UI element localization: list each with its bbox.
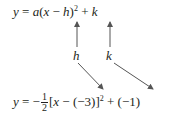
specific-vertex-form-equation: y = −12[x − (−3)]2 + (−1) [13,93,140,114]
plus-k-value: + (−1) [104,94,140,109]
arrow-k-to-minus1 [114,63,153,89]
minus-h-value: − (−3)] [59,94,100,109]
fraction-denominator: 2 [41,103,48,113]
fraction-one-half: 12 [41,92,48,113]
arrow-h-to-minus3 [78,63,103,89]
label-k: k [106,49,112,62]
label-h: h [73,49,80,62]
equals-negative: = − [19,94,40,109]
